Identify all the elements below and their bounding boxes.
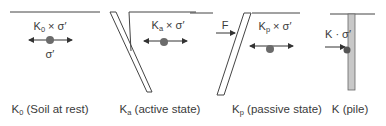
force-label: Ka × σ′ <box>152 19 185 33</box>
force-label: Kp × σ′ <box>259 20 292 34</box>
force-label: K · σ′ <box>325 28 351 40</box>
panel-k0-at-rest: K0 × σ′ σ′ K0 (Soil at rest) <box>10 12 100 117</box>
applied-force-label: F <box>222 19 229 31</box>
force-label: K0 × σ′ <box>34 20 67 34</box>
stress-label: σ′ <box>46 48 55 60</box>
caption-kp: Kp (passive state) <box>232 103 322 117</box>
soil-element-dot <box>344 47 351 54</box>
retaining-wall-tilted-away <box>110 12 152 92</box>
caption-ka: Ka (active state) <box>120 103 201 117</box>
panel-ka-active: Ka × σ′ Ka (active state) <box>110 12 201 117</box>
caption-k-pile: K (pile) <box>332 103 369 115</box>
caption-k0: K0 (Soil at rest) <box>11 103 88 117</box>
soil-element-dot <box>160 38 168 46</box>
panel-k-pile: K · σ′ K (pile) <box>325 14 375 115</box>
soil-element-dot <box>266 45 274 53</box>
panel-kp-passive: F Kp × σ′ Kp (passive state) <box>190 13 322 117</box>
soil-element-dot <box>46 36 54 44</box>
earth-pressure-diagram: K0 × σ′ σ′ K0 (Soil at rest) Ka × σ′ Ka … <box>0 0 386 126</box>
